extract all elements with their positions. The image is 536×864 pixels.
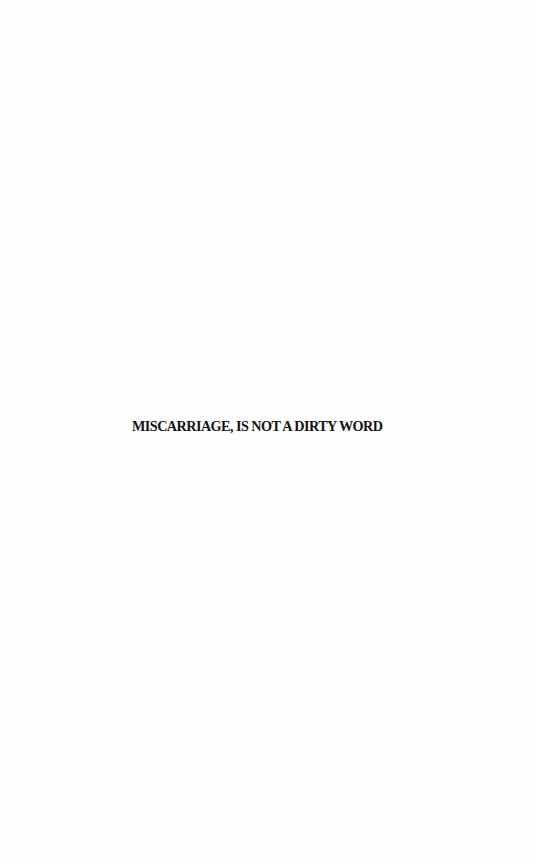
page-title: MISCARRIAGE, IS NOT A DIRTY WORD	[132, 417, 382, 435]
document-page: MISCARRIAGE, IS NOT A DIRTY WORD	[0, 0, 536, 864]
